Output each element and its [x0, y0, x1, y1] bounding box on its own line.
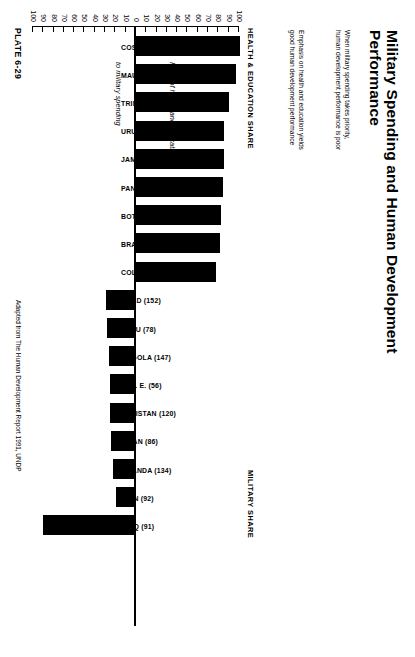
bar-label: COSTA RICA (40)	[121, 44, 180, 51]
y-axis-tick-label: 90	[40, 4, 47, 22]
source-credit: Adapted from The Human Development Repor…	[15, 300, 22, 471]
bar-label: TRINIDAD & TOBAGO (39)	[121, 100, 211, 107]
bar-label: BRAZIL (60)	[121, 241, 163, 248]
y-axis-tick-label: 80	[51, 4, 58, 22]
y-axis-tick-label: 80	[215, 4, 222, 22]
category-label-health-education: HEALTH & EDUCATION SHARE	[246, 28, 255, 149]
bar-label: MAURITIUS (47)	[121, 72, 176, 79]
y-axis-tick-label: 10	[123, 4, 130, 22]
y-axis-tick-label: 0	[133, 4, 140, 22]
y-axis-tick-label: 100	[30, 4, 37, 22]
bar-label: CHAD (152)	[121, 297, 161, 304]
screenshot-frame: Military Spending and Human Development …	[0, 0, 415, 657]
y-axis-tick-label: 40	[92, 4, 99, 22]
chart-page: Military Spending and Human Development …	[0, 0, 415, 657]
y-axis-tick-label: 70	[61, 4, 68, 22]
page-title: Military Spending and Human Development …	[366, 30, 401, 390]
y-axis-tick-label: 60	[195, 4, 202, 22]
bar-label: JAMAICA (59)	[121, 156, 169, 163]
y-axis-tick-label: 10	[143, 4, 150, 22]
bar-label: BOTSWANA (95)	[121, 213, 178, 220]
bar-label: IRAQ (91)	[121, 523, 154, 530]
bar-label: PAKISTAN (120)	[121, 410, 176, 417]
bar-label: ANGOLA (147)	[121, 354, 171, 361]
y-axis-tick-label: 40	[174, 4, 181, 22]
y-axis-tick-label: 20	[154, 4, 161, 22]
bar-label: PERU (78)	[121, 326, 156, 333]
annotation-health-note: Emphasis on health and education yieldsg…	[287, 30, 305, 240]
category-label-military: MILITARY SHARE	[246, 470, 255, 538]
y-axis-tick-label: 20	[112, 4, 119, 22]
y-axis-tick-label: 100	[236, 4, 243, 22]
y-axis-tick-label: 50	[185, 4, 192, 22]
bar-label: COLOMBIA (61)	[121, 269, 175, 276]
bar-label: URUGUAY (32)	[121, 128, 172, 135]
plate-number: PLATE 6-29	[13, 28, 23, 79]
bar-label: PANAMA (54)	[121, 185, 167, 192]
y-axis-tick-label: 30	[102, 4, 109, 22]
bar-label: OMAN (86)	[121, 438, 158, 445]
bar-series: COSTA RICA (40)MAURITIUS (47)TRINIDAD & …	[33, 26, 239, 626]
y-axis-tick-label: 70	[205, 4, 212, 22]
bar-label: U. A. E. (56)	[121, 382, 162, 389]
y-axis-tick-label: 90	[226, 4, 233, 22]
y-axis-tick-label: 60	[71, 4, 78, 22]
y-axis-tick-label: 30	[164, 4, 171, 22]
y-axis-tick-label: 50	[82, 4, 89, 22]
bar-label: UGANDA (134)	[121, 467, 171, 474]
bar-label: IRAN (92)	[121, 495, 154, 502]
annotation-military-note: When military spending takes priority,hu…	[333, 30, 351, 240]
chart-plot-area: 1009080706050403020100102030405060708090…	[33, 26, 239, 626]
